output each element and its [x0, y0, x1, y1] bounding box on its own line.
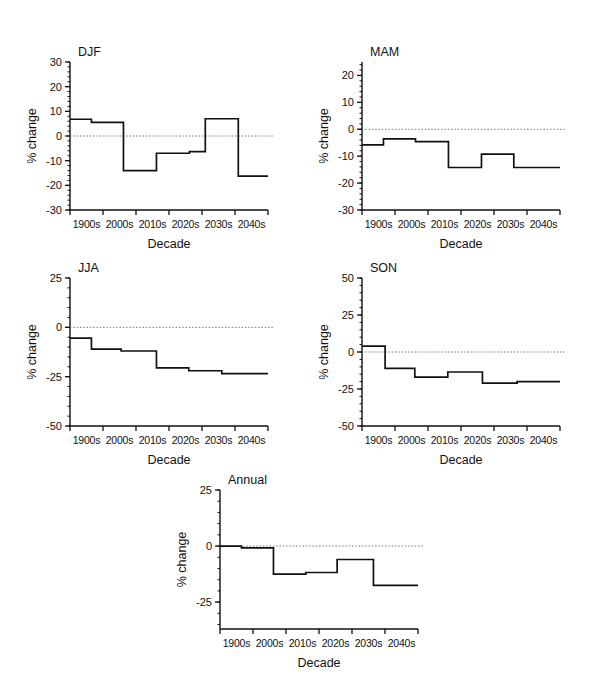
- y-tick-label: -30: [338, 204, 354, 216]
- x-tick-label: 1900s: [223, 637, 251, 649]
- y-tick-label: 0: [206, 540, 212, 552]
- x-tick-label: 2040s: [530, 218, 558, 230]
- x-tick-label: 1900s: [365, 218, 393, 230]
- y-tick-label: -20: [338, 177, 354, 189]
- x-tick-label: 2010s: [139, 434, 167, 446]
- panel-annual-svg: -250251900s2000s2010s2020s2030s2040sDeca…: [146, 462, 446, 697]
- x-tick-label: 2000s: [398, 434, 426, 446]
- x-tick-label: 2010s: [431, 434, 459, 446]
- x-tick-label: 2030s: [497, 218, 525, 230]
- data-step-line: [70, 119, 268, 176]
- x-tick-label: 2010s: [139, 218, 167, 230]
- y-tick-label: 20: [50, 81, 62, 93]
- data-step-line: [362, 139, 560, 168]
- panel-title: DJF: [78, 45, 101, 59]
- y-tick-label: -10: [46, 155, 62, 167]
- panel-jja: -50-250251900s2000s2010s2020s2030s2040sD…: [0, 240, 300, 470]
- data-step-line: [70, 338, 268, 374]
- panel-title: MAM: [370, 45, 399, 59]
- x-tick-label: 2030s: [205, 218, 233, 230]
- y-tick-label: -50: [338, 420, 354, 432]
- y-axis-title: % change: [175, 532, 189, 588]
- x-tick-label: 2010s: [289, 637, 317, 649]
- y-tick-label: -10: [338, 150, 354, 162]
- x-tick-label: 2040s: [238, 434, 266, 446]
- data-step-line: [220, 546, 418, 585]
- y-axis-title: % change: [25, 324, 39, 380]
- y-tick-label: 50: [342, 272, 354, 284]
- x-tick-label: 2020s: [172, 434, 200, 446]
- y-tick-label: -20: [46, 179, 62, 191]
- y-tick-label: 30: [50, 56, 62, 68]
- y-tick-label: 0: [56, 130, 62, 142]
- y-tick-label: 10: [50, 105, 62, 117]
- y-tick-label: 0: [56, 321, 62, 333]
- panel-title: JJA: [78, 261, 100, 275]
- y-tick-label: 0: [348, 123, 354, 135]
- y-tick-label: 25: [200, 484, 212, 496]
- x-tick-label: 2020s: [172, 218, 200, 230]
- panel-djf-svg: -30-20-1001020301900s2000s2010s2020s2030…: [0, 24, 300, 254]
- y-tick-label: 20: [342, 69, 354, 81]
- y-axis-title: % change: [317, 108, 331, 164]
- x-tick-label: 2000s: [106, 218, 134, 230]
- panel-mam-svg: -30-20-10010201900s2000s2010s2020s2030s2…: [292, 24, 592, 254]
- y-tick-label: 10: [342, 96, 354, 108]
- y-tick-label: -25: [338, 383, 354, 395]
- x-tick-label: 2040s: [238, 218, 266, 230]
- x-tick-label: 2030s: [205, 434, 233, 446]
- y-tick-label: 25: [342, 309, 354, 321]
- x-tick-label: 2000s: [256, 637, 284, 649]
- y-tick-label: -30: [46, 204, 62, 216]
- x-tick-label: 2020s: [322, 637, 350, 649]
- y-tick-label: -25: [46, 371, 62, 383]
- multi-panel-step-chart-figure: -30-20-1001020301900s2000s2010s2020s2030…: [0, 0, 592, 699]
- x-tick-label: 2040s: [388, 637, 416, 649]
- panel-title: SON: [370, 261, 397, 275]
- y-axis-title: % change: [25, 108, 39, 164]
- y-tick-label: 0: [348, 346, 354, 358]
- y-tick-label: -25: [196, 596, 212, 608]
- y-tick-label: -50: [46, 420, 62, 432]
- x-tick-label: 2000s: [106, 434, 134, 446]
- x-tick-label: 2030s: [497, 434, 525, 446]
- x-tick-label: 2020s: [464, 218, 492, 230]
- y-tick-label: 25: [50, 272, 62, 284]
- x-tick-label: 1900s: [73, 434, 101, 446]
- x-tick-label: 2030s: [355, 637, 383, 649]
- panel-annual: -250251900s2000s2010s2020s2030s2040sDeca…: [146, 462, 446, 697]
- panel-jja-svg: -50-250251900s2000s2010s2020s2030s2040sD…: [0, 240, 300, 470]
- x-tick-label: 2010s: [431, 218, 459, 230]
- y-axis-title: % change: [317, 324, 331, 380]
- panel-son-svg: -50-25025501900s2000s2010s2020s2030s2040…: [292, 240, 592, 470]
- x-axis-title: Decade: [297, 656, 340, 670]
- panel-djf: -30-20-1001020301900s2000s2010s2020s2030…: [0, 24, 300, 254]
- x-tick-label: 1900s: [365, 434, 393, 446]
- x-tick-label: 2020s: [464, 434, 492, 446]
- panel-title: Annual: [228, 473, 267, 487]
- panel-mam: -30-20-10010201900s2000s2010s2020s2030s2…: [292, 24, 592, 254]
- x-tick-label: 1900s: [73, 218, 101, 230]
- panel-son: -50-25025501900s2000s2010s2020s2030s2040…: [292, 240, 592, 470]
- x-tick-label: 2040s: [530, 434, 558, 446]
- x-tick-label: 2000s: [398, 218, 426, 230]
